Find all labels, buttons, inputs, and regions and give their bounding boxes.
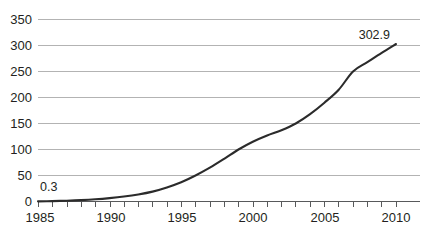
- y-tick-label-250: 250: [10, 64, 32, 79]
- y-tick-label-50: 50: [18, 168, 32, 183]
- x-tick-label-2010: 2010: [382, 210, 411, 225]
- chart-canvas: 350 300 250 200 150 100 50 0: [0, 0, 433, 235]
- x-tick-label-2000: 2000: [239, 210, 268, 225]
- x-tick-label-1995: 1995: [168, 210, 197, 225]
- x-axis-tick-labels: 1985 1990 1995 2000 2005 2010: [26, 210, 411, 225]
- line-chart: 350 300 250 200 150 100 50 0: [0, 0, 433, 235]
- y-axis-tick-labels: 350 300 250 200 150 100 50 0: [10, 12, 32, 209]
- gridlines: [38, 20, 420, 176]
- y-tick-label-150: 150: [10, 116, 32, 131]
- y-tick-label-200: 200: [10, 90, 32, 105]
- y-tick-label-300: 300: [10, 38, 32, 53]
- last-point-label: 302.9: [359, 28, 390, 42]
- data-series-line: [38, 44, 396, 201]
- x-tick-label-2005: 2005: [311, 210, 340, 225]
- first-point-label: 0.3: [40, 180, 57, 194]
- x-axis-minor-ticks: [39, 202, 397, 207]
- x-tick-label-1985: 1985: [26, 210, 55, 225]
- y-tick-label-350: 350: [10, 12, 32, 27]
- y-tick-label-0: 0: [25, 194, 32, 209]
- y-tick-label-100: 100: [10, 142, 32, 157]
- x-tick-label-1990: 1990: [97, 210, 126, 225]
